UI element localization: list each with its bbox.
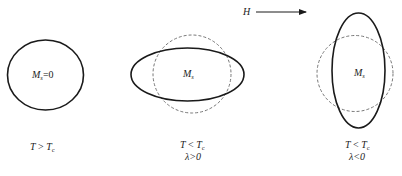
magnetostriction-diagram: H Ms=0 T > Tc Ms T < Tc λ>0 Ms T < Tc — [0, 0, 402, 176]
shape-label: Ms — [353, 67, 365, 79]
condition-temperature: T > Tc — [30, 141, 55, 153]
field-arrow: H — [242, 6, 306, 17]
condition-temperature: T < Tc — [345, 139, 370, 151]
condition-temperature: T < Tc — [180, 139, 205, 151]
panel-paramagnetic: Ms=0 T > Tc — [8, 40, 84, 153]
shape-label: Ms=0 — [31, 69, 54, 81]
panel-positive-magnetostriction: Ms T < Tc λ>0 — [131, 35, 244, 162]
condition-lambda: λ>0 — [184, 151, 201, 162]
condition-lambda: λ<0 — [348, 151, 365, 162]
shape-label: Ms — [182, 68, 194, 80]
field-label: H — [242, 6, 251, 17]
panel-negative-magnetostriction: Ms T < Tc λ<0 — [317, 13, 393, 162]
